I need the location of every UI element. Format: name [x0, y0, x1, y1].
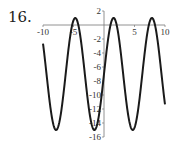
y-tick-label: -16 — [89, 132, 101, 142]
y-tick-label: -4 — [94, 48, 102, 58]
x-tick-label: 10 — [161, 27, 171, 37]
y-tick-label: -6 — [94, 62, 102, 72]
y-tick-label: -8 — [94, 76, 102, 86]
y-tick-label: -10 — [89, 90, 101, 100]
sine-plot: -10-55102-2-4-6-8-10-12-14-16 — [0, 0, 187, 149]
y-tick-label: 2 — [97, 6, 102, 16]
x-tick-label: 5 — [132, 27, 137, 37]
y-tick-label: -2 — [94, 34, 102, 44]
x-tick-label: -10 — [37, 27, 49, 37]
